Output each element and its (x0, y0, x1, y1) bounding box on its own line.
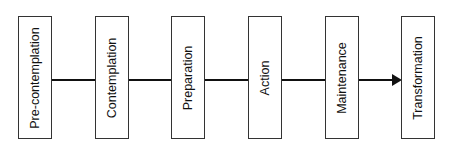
stage-label: Contemplation (105, 37, 119, 118)
stage-label: Action (258, 60, 272, 95)
stage-box-maintenance: Maintenance (325, 16, 359, 139)
stage-box-contemplation: Contemplation (95, 16, 129, 139)
stage-box-action: Action (248, 16, 282, 139)
connector-1-2 (52, 79, 96, 81)
stage-label: Preparation (181, 45, 195, 110)
stage-label: Maintenance (335, 42, 349, 114)
stage-box-precontemplation: Pre-contemplation (18, 16, 52, 139)
connector-4-5 (282, 79, 326, 81)
connector-3-4 (205, 79, 249, 81)
stage-label: Pre-contemplation (28, 27, 42, 128)
stage-box-transformation: Transformation (401, 16, 435, 139)
stage-label: Transformation (411, 36, 425, 120)
connector-2-3 (129, 79, 172, 81)
stage-box-preparation: Preparation (171, 16, 205, 139)
connector-5-6 (359, 79, 393, 81)
